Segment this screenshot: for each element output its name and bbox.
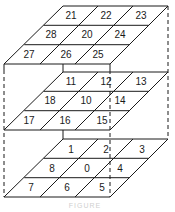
cell-label: 15 <box>96 115 108 126</box>
cell-label: 27 <box>23 49 35 60</box>
cell-label: 0 <box>84 163 90 174</box>
cell-label: 1 <box>68 144 74 155</box>
cell-label: 8 <box>49 163 55 174</box>
cell-label: 20 <box>81 29 93 40</box>
cell-label: 11 <box>66 76 77 87</box>
cell-label: 28 <box>45 29 57 40</box>
cell-label: 10 <box>80 95 92 106</box>
cell-label: 23 <box>135 10 147 21</box>
cell-label: 6 <box>64 182 70 193</box>
middle-layer-labels: 11 12 13 18 10 14 17 16 15 <box>23 76 147 126</box>
cell-label: 25 <box>92 49 104 60</box>
cell-label: 4 <box>117 163 123 174</box>
cell-label: 16 <box>59 115 71 126</box>
cell-label: 22 <box>100 10 112 21</box>
cell-label: 13 <box>135 76 147 87</box>
cell-label: 3 <box>139 144 145 155</box>
cell-label: 5 <box>99 182 105 193</box>
cell-label: 2 <box>103 144 109 155</box>
lattice-diagram: 21 22 23 28 20 24 27 26 25 11 12 13 18 1… <box>0 0 175 212</box>
cell-label: 18 <box>44 95 56 106</box>
top-layer-labels: 21 22 23 28 20 24 27 26 25 <box>23 10 147 60</box>
cell-label: 14 <box>114 95 126 106</box>
figure-caption: FIGURE <box>69 202 101 209</box>
cell-label: 7 <box>28 182 34 193</box>
cell-label: 17 <box>23 115 35 126</box>
cell-label: 12 <box>100 76 112 87</box>
cell-label: 21 <box>65 10 77 21</box>
cell-label: 26 <box>60 49 72 60</box>
cell-label: 24 <box>114 29 126 40</box>
